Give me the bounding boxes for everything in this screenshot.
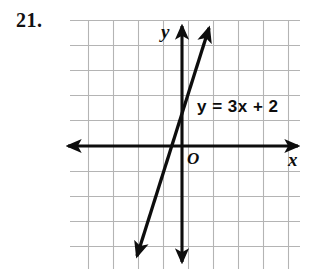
origin-label: O (187, 150, 199, 167)
y-axis-label: y (161, 22, 169, 41)
equation-label: y = 3x + 2 (197, 97, 279, 117)
x-axis-label: x (288, 150, 298, 169)
coordinate-graph (0, 0, 318, 269)
worksheet-problem-figure: 21. (0, 0, 318, 269)
